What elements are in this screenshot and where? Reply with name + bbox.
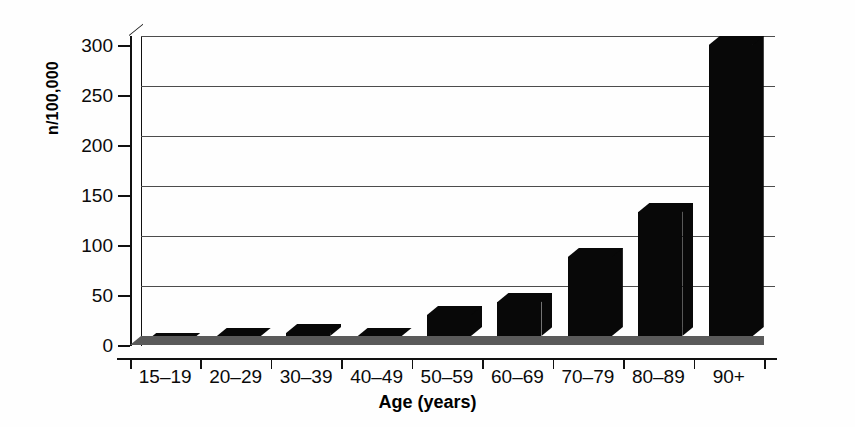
x-axis-tick-label: 15–19	[130, 366, 200, 388]
x-axis-tick	[482, 358, 484, 369]
x-axis-tick-label: 30–39	[271, 366, 341, 388]
x-axis-tick-label: 60–69	[482, 366, 552, 388]
x-axis-tick-label: 70–79	[553, 366, 623, 388]
bar-side-face	[682, 203, 693, 336]
x-axis-tick-label: 80–89	[623, 366, 693, 388]
chart-floor	[130, 336, 764, 345]
bar	[638, 203, 682, 345]
y-axis-tick	[118, 145, 130, 147]
x-axis-tick	[341, 358, 343, 369]
x-axis-tick-label: 50–59	[412, 366, 482, 388]
bar-side-face	[753, 36, 764, 336]
x-axis-line	[117, 358, 777, 360]
y-axis-tick	[118, 195, 130, 197]
plot-area: 15–1920–2930–3940–4950–5960–6970–7980–89…	[0, 0, 855, 427]
axis-wall-left	[130, 36, 142, 346]
bar-front-face	[568, 257, 612, 345]
y-axis-tick	[118, 295, 130, 297]
x-axis-tick-label: 90+	[694, 366, 764, 388]
y-axis-tick	[118, 95, 130, 97]
bar-top-face	[357, 328, 412, 337]
bar-chart: n/100,000 050100150200250300 15–1920–293…	[0, 0, 855, 427]
y-axis-tick	[118, 245, 130, 247]
y-axis-tick	[118, 345, 130, 347]
x-axis-tick-label: 40–49	[341, 366, 411, 388]
bar-side-face	[612, 248, 623, 336]
x-axis-tick	[623, 358, 625, 369]
x-axis-tick	[764, 358, 766, 369]
bar-top-face	[216, 328, 271, 337]
x-axis-title: Age (years)	[0, 392, 855, 413]
x-axis-tick	[412, 358, 414, 369]
x-axis-tick-label: 20–29	[200, 366, 270, 388]
bar	[709, 36, 753, 345]
gridline	[141, 186, 775, 187]
x-axis-tick	[553, 358, 555, 369]
y-axis-tick	[118, 45, 130, 47]
gridline	[141, 36, 775, 37]
bar	[568, 248, 612, 345]
x-axis-tick	[694, 358, 696, 369]
gridline	[141, 86, 775, 87]
x-axis-tick	[200, 358, 202, 369]
gridline	[141, 136, 775, 137]
bar-front-face	[709, 45, 753, 345]
x-axis-tick	[130, 358, 132, 369]
x-axis-tick	[271, 358, 273, 369]
bar-front-face	[638, 212, 682, 345]
